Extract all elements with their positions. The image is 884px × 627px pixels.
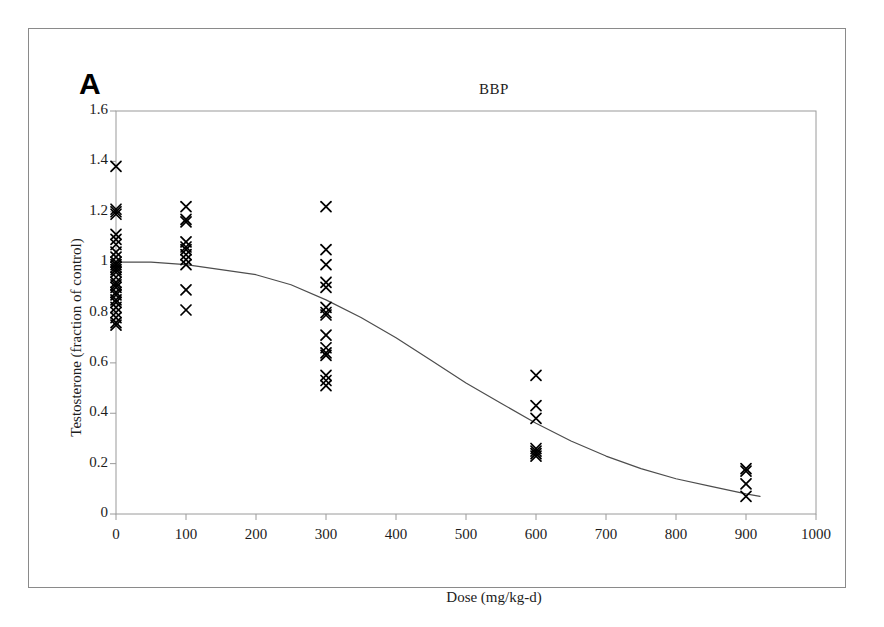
data-point-marker	[321, 277, 331, 287]
data-point-marker	[321, 381, 331, 391]
data-point-marker	[181, 255, 191, 265]
figure-frame: A BBP Testosterone (fraction of control)…	[28, 28, 846, 588]
data-point-marker	[321, 260, 331, 270]
data-points	[111, 161, 751, 501]
data-point-marker	[531, 401, 541, 411]
data-point-marker	[181, 305, 191, 315]
data-point-marker	[321, 330, 331, 340]
data-point-marker	[321, 282, 331, 292]
scatter-plot	[29, 29, 847, 589]
data-point-marker	[321, 202, 331, 212]
fitted-curve	[116, 262, 760, 496]
plot-axes	[110, 111, 816, 520]
data-point-marker	[181, 250, 191, 260]
data-point-marker	[181, 202, 191, 212]
data-point-marker	[321, 376, 331, 386]
data-point-marker	[321, 245, 331, 255]
data-point-marker	[181, 285, 191, 295]
x-axis-title: Dose (mg/kg-d)	[144, 589, 844, 606]
data-point-marker	[741, 491, 751, 501]
data-point-marker	[321, 370, 331, 380]
data-point-marker	[531, 413, 541, 423]
data-point-marker	[531, 370, 541, 380]
data-point-marker	[741, 479, 751, 489]
